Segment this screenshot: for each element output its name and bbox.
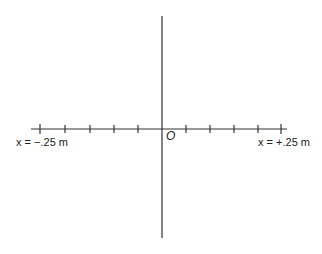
right-end-label: x = +.25 m <box>258 136 310 148</box>
origin-label: O <box>166 129 175 143</box>
axes-diagram: O x = −.25 m x = +.25 m <box>0 0 322 254</box>
left-end-label: x = −.25 m <box>16 136 68 148</box>
